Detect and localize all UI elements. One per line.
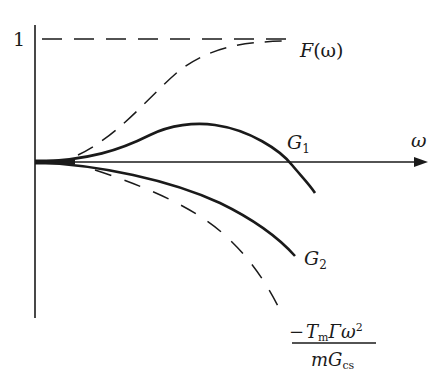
- curve-g2: [35, 162, 295, 256]
- x-axis-arrow-icon: [414, 157, 428, 167]
- parabola-label-denominator: mGcs: [311, 349, 355, 372]
- g1-label: G1: [287, 131, 310, 156]
- diagram-canvas: 1 F(ω) ω G1 G2 −TmΓω2 mGcs: [0, 0, 447, 386]
- g2-label: G2: [304, 247, 327, 272]
- y-tick-1-label: 1: [13, 28, 25, 50]
- x-axis-label: ω: [411, 129, 427, 151]
- f-omega-label: F(ω): [299, 39, 344, 61]
- parabola-label-numerator: −TmΓω2: [289, 321, 363, 344]
- curve-g1: [35, 124, 315, 193]
